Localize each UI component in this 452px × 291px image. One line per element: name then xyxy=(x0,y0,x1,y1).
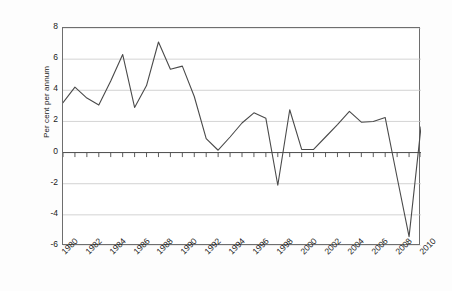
gridlines xyxy=(63,28,421,246)
chart-figure: Per cent per annum 86420-2-4-6 198019821… xyxy=(0,0,452,291)
plot-area xyxy=(62,27,420,245)
y-tick-label: -4 xyxy=(32,209,58,218)
y-tick-label: 2 xyxy=(32,115,58,124)
y-tick-label: 0 xyxy=(32,147,58,156)
x-axis-minor-ticks xyxy=(63,153,421,158)
y-tick-label: -6 xyxy=(32,240,58,249)
y-tick-label: 8 xyxy=(32,22,58,31)
y-axis-tick-labels: 86420-2-4-6 xyxy=(30,27,58,245)
line-chart-plot xyxy=(63,28,421,246)
y-tick-label: 4 xyxy=(32,84,58,93)
y-tick-label: 6 xyxy=(32,53,58,62)
data-series-line xyxy=(63,42,421,237)
x-axis-tick-labels: 1980198219841986198819901992199419961998… xyxy=(62,248,420,291)
y-tick-label: -2 xyxy=(32,178,58,187)
